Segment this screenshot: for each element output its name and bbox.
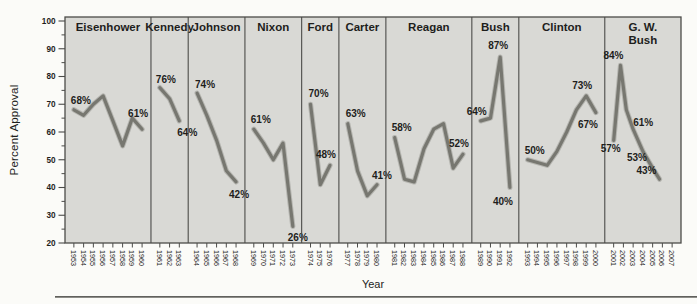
- value-callout: 43%: [636, 165, 656, 176]
- president-title-carter: Carter: [345, 21, 379, 33]
- value-callout: 53%: [627, 152, 647, 163]
- x-tick-label-year: 1981: [390, 250, 399, 266]
- x-tick-label-year: 2006: [657, 250, 666, 266]
- x-tick-label-year: 1996: [552, 250, 561, 266]
- x-tick-label-year: 1988: [458, 250, 467, 266]
- value-callout: 64%: [177, 127, 197, 138]
- x-tick-label-year: 1963: [174, 250, 183, 266]
- y-tick-label: 50: [46, 156, 56, 165]
- president-title-kennedy: Kennedy: [145, 21, 194, 33]
- x-tick-label-year: 2003: [628, 250, 637, 266]
- x-tick-label-year: 1973: [288, 250, 297, 266]
- x-tick-label-year: 1979: [362, 250, 371, 266]
- value-callout: 84%: [603, 50, 623, 61]
- value-callout: 76%: [156, 74, 176, 85]
- x-tick-label-year: 1993: [523, 250, 532, 266]
- president-title-clinton: Clinton: [542, 21, 582, 33]
- x-tick-label-year: 1987: [448, 250, 457, 266]
- x-tick-label-year: 1974: [306, 250, 315, 266]
- value-callout: 48%: [316, 149, 336, 160]
- x-tick-label-year: 1978: [353, 250, 362, 266]
- president-title-bush: Bush: [481, 21, 510, 33]
- y-axis-title: Percent Approval: [8, 85, 20, 176]
- value-callout: 57%: [601, 143, 621, 154]
- value-callout: 61%: [251, 114, 271, 125]
- x-tick-label-year: 1958: [118, 250, 127, 266]
- president-title-reagan: Reagan: [408, 21, 450, 33]
- x-tick-label-year: 1991: [495, 250, 504, 266]
- value-callout: 64%: [467, 106, 487, 117]
- y-tick-label: 90: [46, 45, 56, 54]
- x-tick-label-year: 1955: [88, 250, 97, 266]
- x-tick-label-year: 2004: [638, 250, 647, 266]
- value-callout: 42%: [229, 189, 249, 200]
- y-tick-label: 40: [46, 183, 56, 192]
- president-title-nixon: Nixon: [257, 21, 289, 33]
- x-tick-label-year: 1975: [315, 250, 324, 266]
- x-tick-label-year: 1967: [221, 250, 230, 266]
- value-callout: 61%: [128, 108, 148, 119]
- x-tick-label-year: 1998: [571, 250, 580, 266]
- president-title-eisenhower: Eisenhower: [76, 21, 141, 33]
- x-tick-label-year: 1976: [325, 250, 334, 266]
- value-callout: 87%: [488, 40, 508, 51]
- x-tick-label-year: 1983: [409, 250, 418, 266]
- chart-page: 2030405060708090100Eisenhower19531954195…: [0, 0, 697, 304]
- value-callout: 26%: [288, 232, 308, 243]
- x-tick-label-year: 1959: [127, 250, 136, 266]
- x-tick-label-year: 1994: [532, 250, 541, 266]
- x-tick-label-year: 1980: [372, 250, 381, 266]
- y-tick-label: 70: [46, 100, 56, 109]
- x-tick-label-year: 1953: [69, 250, 78, 266]
- value-callout: 40%: [493, 196, 513, 207]
- x-tick-label-year: 1966: [212, 250, 221, 266]
- x-tick-label-year: 2001: [609, 250, 618, 266]
- y-tick-label: 100: [42, 17, 56, 26]
- x-tick-label-year: 1989: [476, 250, 485, 266]
- x-tick-label-year: 1999: [581, 250, 590, 266]
- value-callout: 73%: [572, 80, 592, 91]
- x-tick-label-year: 1965: [202, 250, 211, 266]
- x-tick-label-year: 2007: [667, 250, 676, 266]
- x-tick-label-year: 1968: [231, 250, 240, 266]
- value-callout: 58%: [392, 122, 412, 133]
- x-tick-label-year: 1961: [155, 250, 164, 266]
- y-tick-label: 60: [46, 128, 56, 137]
- page-divider-rule: [55, 296, 697, 298]
- president-title-g-w-bush: G. W.Bush: [629, 21, 658, 46]
- x-tick-label-year: 1995: [542, 250, 551, 266]
- value-callout: 50%: [525, 145, 545, 156]
- x-tick-label-year: 1985: [429, 250, 438, 266]
- y-tick-label: 30: [46, 211, 56, 220]
- x-tick-label-year: 1962: [165, 250, 174, 266]
- x-tick-label-year: 1984: [419, 250, 428, 266]
- value-callout: 67%: [578, 119, 598, 130]
- x-tick-label-year: 1971: [268, 250, 277, 266]
- x-tick-label-year: 2005: [648, 250, 657, 266]
- y-tick-label: 20: [46, 239, 56, 248]
- x-tick-label-year: 2002: [618, 250, 627, 266]
- presidential-approval-chart: 2030405060708090100Eisenhower19531954195…: [0, 0, 697, 304]
- x-tick-label-year: 1986: [438, 250, 447, 266]
- x-tick-label-year: 1957: [108, 250, 117, 266]
- x-tick-label-year: 1970: [259, 250, 268, 266]
- x-tick-label-year: 2000: [591, 250, 600, 266]
- value-callout: 68%: [71, 95, 91, 106]
- x-tick-label-year: 1956: [98, 250, 107, 266]
- x-tick-label-year: 1990: [485, 250, 494, 266]
- x-tick-label-year: 1960: [137, 250, 146, 266]
- y-tick-label: 80: [46, 72, 56, 81]
- x-tick-label-year: 1969: [249, 250, 258, 266]
- value-callout: 52%: [449, 138, 469, 149]
- x-tick-label-year: 1992: [505, 250, 514, 266]
- value-callout: 70%: [309, 88, 329, 99]
- x-tick-label-year: 1954: [79, 250, 88, 266]
- president-title-johnson: Johnson: [193, 21, 241, 33]
- value-callout: 41%: [372, 170, 392, 181]
- president-title-ford: Ford: [307, 21, 333, 33]
- x-tick-label-year: 1997: [562, 250, 571, 266]
- plot-area: [65, 17, 681, 243]
- x-tick-label-year: 1982: [399, 250, 408, 266]
- value-callout: 61%: [633, 117, 653, 128]
- x-tick-label-year: 1964: [192, 250, 201, 266]
